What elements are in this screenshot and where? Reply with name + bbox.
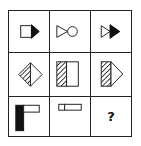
triangle-circle-icon [50,11,90,52]
cell-r3c2 [50,97,91,136]
white-black-triangles-icon [91,11,131,52]
square-black-triangle-icon [9,11,49,52]
hatched-diamond-icon [9,53,49,96]
cell-r2c3 [91,53,131,97]
cell-r1c2 [50,11,91,53]
cell-r3c3[interactable]: ? [91,97,131,136]
cell-r2c2 [50,53,91,97]
cell-r2c1 [9,53,50,97]
hatched-rectangle-triangle-icon [91,53,131,96]
hatched-white-rectangles-icon [50,53,90,96]
black-bar-white-rectangle-icon [9,97,49,136]
cell-r3c1 [9,97,50,136]
puzzle-grid: ? [8,10,132,137]
cell-r1c1 [9,11,50,53]
square-rectangle-icon [50,97,90,136]
question-mark: ? [91,109,131,124]
cell-r1c3 [91,11,131,53]
